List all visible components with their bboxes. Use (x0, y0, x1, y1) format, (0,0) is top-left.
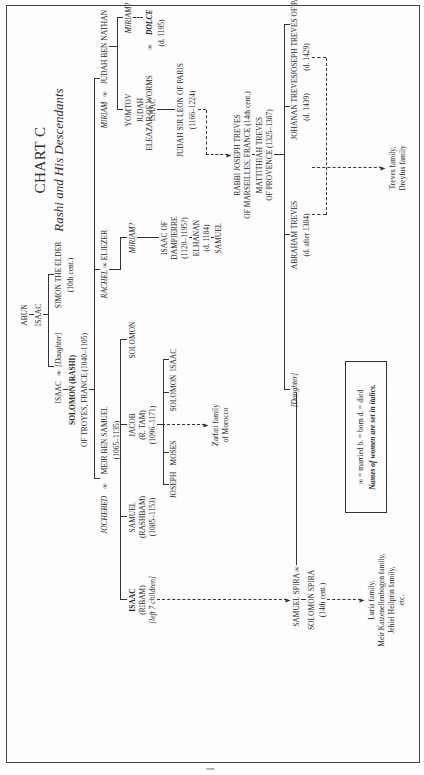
line (120, 339, 127, 340)
solomon-spira-dates: (14th cent.) (318, 583, 327, 618)
rotated-chart-canvas: CHART C Rashi and His Descendants ABUN I… (0, 0, 424, 775)
person-judah: JUDAH (136, 98, 145, 123)
person-elhanan: ELHANAN (192, 220, 201, 256)
arrow-icon (204, 424, 209, 428)
person-miriam-question: MIRIAM? (128, 223, 137, 253)
line (120, 237, 127, 238)
person-meir-ben-samuel: MEIR BEN SAMUEL (100, 406, 109, 474)
abraham-treves-dates: (d. after 1384) (302, 213, 311, 256)
judah-sir-leon-dates: (1166–1224) (188, 91, 197, 129)
person-joseph-treves-of-paris: JOSEPH TREVES OF PARIS (290, 0, 299, 75)
legend-symbols: ∞ = married b. = born d. = died (356, 390, 365, 484)
arrow-icon (227, 154, 232, 158)
person-isaac-ribam: ISAAC (128, 588, 137, 611)
person-isaac-grandson: ISAAC (169, 349, 178, 372)
person-eliezer: ELIEZER (100, 230, 109, 260)
person-judah-ben-nathan: JUDAH BEN NATHAN (100, 10, 109, 84)
arrow-icon (360, 599, 365, 603)
arrow-icon (381, 167, 386, 171)
line (120, 516, 127, 517)
samuel-rashbam-alias: (RASHBAM) (138, 496, 147, 538)
line (109, 46, 117, 47)
line (120, 424, 127, 425)
jacob-dates: (1096–1171) (148, 406, 157, 444)
mattithiah-place: OF PROVENCE (1325–1387) (265, 109, 274, 201)
person-abraham-treves: ABRAHAM TREVES (290, 201, 299, 269)
isaac-dampierre-place: DAMPIERRE (170, 216, 179, 259)
person-solomon-son: SOLOMON (128, 321, 137, 358)
etc-label: etc. (397, 595, 406, 606)
line (120, 238, 121, 270)
person-mattithiah-treves: MATTITHIAH TREVES (255, 117, 264, 193)
person-solomon-spira: SOLOMON SPIRA (307, 570, 316, 630)
dashed-line (206, 154, 228, 155)
simon-dates: (10th cent.) (66, 258, 75, 293)
line (117, 18, 118, 110)
luria-family: Luria family, (367, 580, 376, 619)
line (284, 25, 285, 390)
chart-title: CHART C (32, 127, 48, 194)
samuel-rashbam-dates: (1085–1153) (148, 498, 157, 536)
line (163, 360, 164, 485)
chart-subtitle: Rashi and His Descendants (52, 88, 66, 231)
legend-italics-note: Names of women are set in italics. (368, 384, 377, 490)
line (274, 154, 284, 155)
person-jochebed: JOCHEBED (100, 496, 109, 534)
rashi-place: OF TROYES, FRANCE (1040–1105) (80, 333, 89, 447)
person-dolce: DOLCE (145, 10, 154, 35)
person-jacob-rabbenu-tam: JACOB (128, 413, 137, 437)
married-symbol: ∞ (145, 44, 154, 49)
arrow-icon (286, 599, 291, 603)
person-rachel: RACHEL (100, 270, 109, 298)
person-samuel-great-grandson: SAMUEL (214, 223, 223, 254)
zarfati-family: Zarfati family (211, 404, 220, 446)
dashed-line (157, 599, 287, 600)
marriage-line (296, 393, 297, 565)
dashed-line (133, 17, 143, 18)
line (94, 478, 100, 479)
dashed-line (312, 214, 326, 215)
person-samuel-rashbam: SAMUEL (128, 502, 137, 533)
line (117, 109, 123, 110)
person-simon-the-elder: SIMON THE ELDER (54, 242, 63, 309)
person-abun: ABUN (20, 304, 29, 325)
page-footer-rule (207, 769, 215, 770)
line (109, 269, 120, 270)
line (94, 79, 95, 479)
dolce-dates: (d. 1195) (157, 19, 166, 46)
married-symbol: ∞ (292, 566, 301, 571)
line (120, 599, 127, 600)
person-miriam-question-2: MIRIAM? (124, 3, 133, 33)
dreyfus-family: Dreyfus family (398, 145, 407, 191)
person-miriam: MIRIAM (100, 102, 109, 129)
line (117, 17, 123, 18)
person-rashi: SOLOMON (RASHI) (68, 355, 77, 425)
joseph-treves-place: OF MARSEILLES, FRANCE (14th cent.) (243, 91, 252, 219)
joseph-treves-paris-dates: (d. 1429) (302, 43, 311, 71)
person-daughter-spira: [Daughter] (290, 373, 299, 408)
book-page: CHART C Rashi and His Descendants ABUN I… (0, 0, 424, 775)
person-moses: MOSES (169, 440, 178, 465)
treves-family: Treves family, (388, 147, 397, 190)
line (301, 599, 306, 600)
person-daughter-simon: [Daughter] (54, 332, 63, 367)
line (137, 237, 159, 238)
jacob-alias: (R. TAM) (138, 410, 147, 440)
line (157, 109, 175, 110)
person-rabbi-joseph-treves: RABBI JOSEPH TREVES (233, 114, 242, 196)
dashed-line (327, 599, 361, 600)
married-symbol: ∞ (100, 483, 109, 488)
katzenellenbogen-family: Meir Katzenellenbogen family, (377, 553, 386, 646)
dashed-line (198, 109, 206, 110)
married-symbol: ∞ (100, 91, 109, 96)
person-samuel-spira: SAMUEL SPIRA (292, 573, 301, 627)
person-yomtov: YOMTOV (124, 94, 133, 127)
dashed-line (312, 167, 382, 168)
legend-box: ∞ = married b. = born d. = died Names of… (345, 361, 387, 513)
person-johanan-treves: JOHANAN TREVES (290, 74, 299, 140)
isaac-dampierre-dates: (1120–1195?) (180, 217, 189, 259)
person-solomon-grandson: SOLOMON (169, 374, 178, 411)
heilprin-family: Jehiel Heilprin family, (387, 566, 396, 633)
zarfati-family-place: of Morocco (221, 407, 230, 442)
person-isaac-grandfather: ISAAC (34, 304, 43, 327)
